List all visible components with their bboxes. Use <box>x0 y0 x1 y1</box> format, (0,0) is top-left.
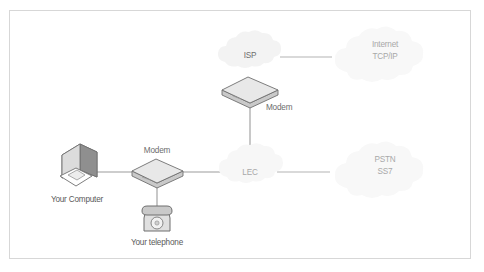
network-diagram: ISP Internet TCP/IP LEC PSTN SS7 Mode <box>0 0 484 272</box>
isp-label: ISP <box>244 51 257 60</box>
computer-label: Your Computer <box>51 195 104 204</box>
telephone-label: Your telephone <box>131 238 184 247</box>
telephone-dial-center <box>155 221 159 225</box>
internet-label-line2: TCP/IP <box>372 52 398 61</box>
diagram-canvas: ISP Internet TCP/IP LEC PSTN SS7 Mode <box>0 0 484 272</box>
telephone-handset <box>142 206 172 215</box>
modem-user-label: Modem <box>144 146 171 155</box>
lec-label: LEC <box>242 168 258 177</box>
pstn-label-line2: SS7 <box>378 167 394 176</box>
modem-isp-label: Modem <box>266 103 293 112</box>
pstn-label-line1: PSTN <box>374 155 395 164</box>
internet-label-line1: Internet <box>372 40 399 49</box>
